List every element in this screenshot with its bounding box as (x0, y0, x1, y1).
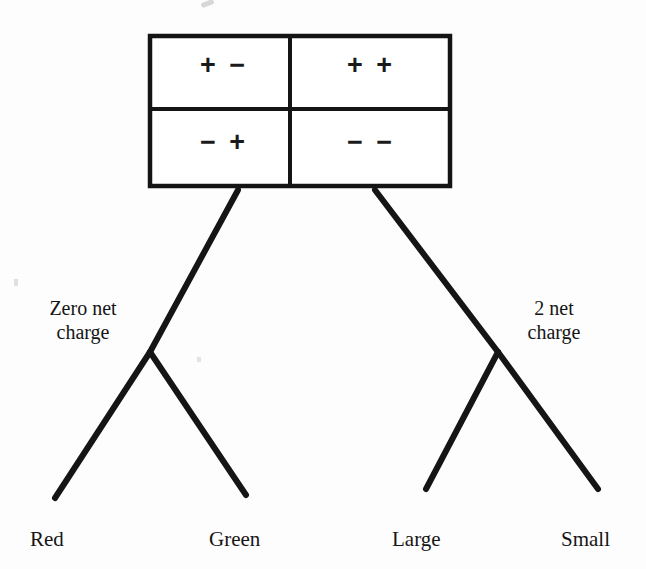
edge-two-to-large (426, 352, 498, 489)
edge-trunk-right (375, 190, 498, 352)
matrix-cell-bottom-right: − − (300, 127, 442, 158)
branch-note-zero-net-charge: Zero net charge (18, 297, 148, 344)
matrix-cell-bottom-left: − + (160, 127, 288, 158)
matrix-cell-top-left: + − (160, 50, 288, 81)
edge-zero-to-red (55, 352, 150, 498)
matrix-cell-top-right: + + (300, 50, 442, 81)
leaf-label-red: Red (30, 527, 64, 552)
edge-two-to-small (498, 352, 598, 489)
leaf-label-large: Large (392, 527, 441, 552)
diagram-canvas: + − + + − + − − Zero net charge 2 net ch… (0, 0, 646, 569)
leaf-label-green: Green (209, 527, 260, 552)
edge-trunk-left (150, 190, 238, 352)
leaf-label-small: Small (561, 527, 610, 552)
branch-note-two-net-charge: 2 net charge (494, 297, 614, 344)
leaf-edges (55, 352, 598, 498)
trunk-edges (150, 190, 498, 352)
edge-zero-to-green (150, 352, 246, 495)
tree-diagram-graphics (0, 0, 646, 569)
